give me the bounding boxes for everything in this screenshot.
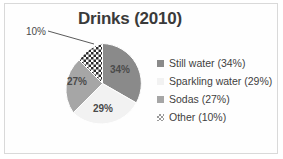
legend-swatch-sparkling-water-icon xyxy=(157,78,164,85)
legend-item-still-water[interactable]: Still water (34%) xyxy=(157,54,277,72)
pie-label-sparkling-water: 29% xyxy=(93,103,113,114)
legend-label-still-water: Still water (34%) xyxy=(169,57,245,69)
chart-canvas: Drinks (2010) 34% 29% 27% 10% xyxy=(0,0,283,159)
legend-swatch-still-water-icon xyxy=(157,60,164,67)
pie-label-other: 10% xyxy=(26,26,46,37)
legend-label-other: Other (10%) xyxy=(169,111,226,123)
legend-label-sparkling-water: Sparkling water (29%) xyxy=(169,75,272,87)
pie-label-sodas: 27% xyxy=(67,76,87,87)
legend-swatch-other-icon xyxy=(157,114,164,121)
legend-item-sparkling-water[interactable]: Sparkling water (29%) xyxy=(157,72,277,90)
legend-item-other[interactable]: Other (10%) xyxy=(157,108,277,126)
legend-swatch-sodas-icon xyxy=(157,96,164,103)
chart-legend: Still water (34%) Sparkling water (29%) … xyxy=(157,54,277,126)
legend-item-sodas[interactable]: Sodas (27%) xyxy=(157,90,277,108)
legend-label-sodas: Sodas (27%) xyxy=(169,93,230,105)
pie-label-still-water: 34% xyxy=(110,64,130,75)
